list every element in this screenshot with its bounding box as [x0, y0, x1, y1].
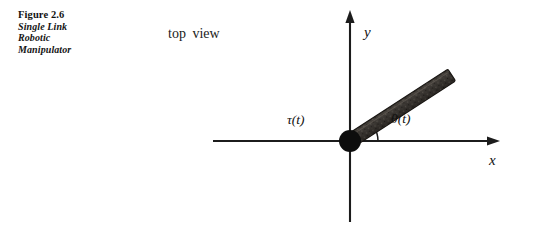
pivot-joint: [339, 130, 361, 152]
x-axis-label: x: [489, 152, 496, 169]
y-axis-arrowhead-icon: [345, 10, 354, 23]
x-axis-arrowhead-icon: [487, 136, 500, 145]
link-highlight-edge: [345, 73, 448, 140]
torque-label: τ(t): [287, 112, 305, 128]
figure-container: Figure 2.6 Single Link Robotic Manipulat…: [0, 0, 548, 233]
y-axis-label: y: [364, 24, 371, 41]
theta-angle-label: θ(t): [391, 111, 410, 127]
manipulator-diagram: [0, 0, 548, 233]
